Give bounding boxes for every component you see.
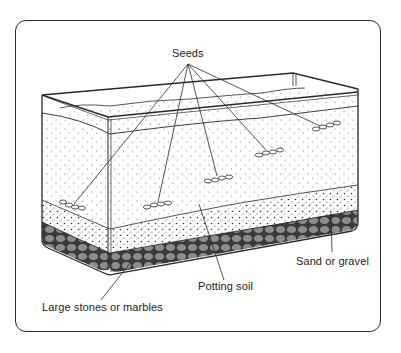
- tank-short-face: [42, 113, 110, 270]
- label-potting-soil: Potting soil: [198, 280, 253, 292]
- label-large-stones: Large stones or marbles: [42, 301, 163, 313]
- label-sand-or-gravel: Sand or gravel: [296, 255, 369, 267]
- label-seeds: Seeds: [172, 47, 204, 59]
